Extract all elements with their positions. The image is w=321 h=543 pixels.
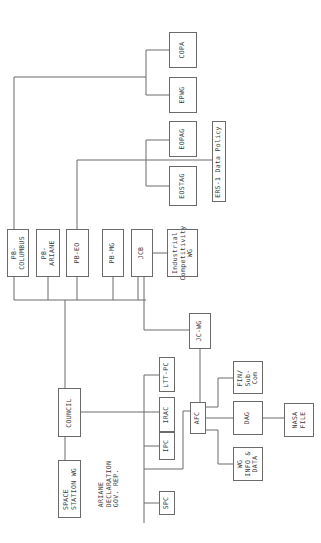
- node-council: COUNCIL: [58, 388, 81, 437]
- node-jc-wg: JC-WG: [189, 313, 211, 349]
- connector-line: [144, 277, 189, 330]
- connector-line: [14, 77, 146, 229]
- node-ariane-declaration: ARIANE DECLARATION GOV. REP.: [95, 456, 123, 512]
- node-eopag: EOPAG: [169, 121, 197, 157]
- node-label: COUNCIL: [66, 398, 74, 428]
- node-ers1: ERS-1 Data Policy: [212, 121, 226, 202]
- node-epwg: EPWG: [169, 77, 197, 113]
- node-label: ERS-1 Data Policy: [215, 126, 223, 198]
- node-jcb: JCB: [131, 229, 153, 277]
- node-afc: AFC: [190, 402, 206, 434]
- node-label: EPWG: [179, 87, 187, 104]
- node-pb-mg: PB-MG: [102, 229, 124, 277]
- node-label: JC-WG: [196, 320, 204, 341]
- node-label: Industrial Competitivity WG: [171, 226, 194, 281]
- node-nasa-file: NASA FILE: [284, 403, 314, 437]
- node-label: IRAC: [163, 406, 171, 423]
- node-eostag: EOSTAG: [169, 166, 197, 206]
- connector-line: [206, 378, 233, 407]
- node-label: LTT-PC: [163, 362, 171, 387]
- connector-line: [14, 277, 146, 300]
- node-label: PB-MG: [109, 242, 117, 263]
- node-pb-columbus: PB- COLUMBUS: [7, 229, 29, 277]
- node-ltt-pc: LTT-PC: [159, 357, 175, 392]
- node-space-station-wg: SPACE STATION WG: [58, 460, 81, 518]
- node-label: JCB: [138, 247, 146, 260]
- node-label: EOPAG: [179, 128, 187, 149]
- node-copa: COPA: [169, 32, 197, 68]
- node-label: ARIANE DECLARATION GOV. REP.: [98, 461, 121, 507]
- node-label: PB-EO: [74, 242, 82, 263]
- node-label: SPACE STATION WG: [62, 468, 77, 510]
- node-label: DAG: [244, 412, 252, 425]
- node-spc: SPC: [159, 491, 175, 515]
- node-label: IPC: [163, 440, 171, 453]
- org-chart: COPAEPWGEOPAGEOSTAGERS-1 Data PolicyPB- …: [0, 0, 321, 543]
- node-label: WG INFO & DATA: [237, 451, 260, 476]
- node-label: PB- COLUMBUS: [11, 236, 26, 270]
- node-pb-eo: PB-EO: [66, 229, 89, 277]
- node-label: EOSTAG: [179, 173, 187, 198]
- node-fin-sub-com: FIN/ Sub- Com: [233, 361, 263, 394]
- node-industrial-wg: Industrial Competitivity WG: [167, 229, 198, 277]
- node-label: AFC: [194, 412, 202, 425]
- node-label: PB- ARIANE: [41, 240, 56, 265]
- node-dag: DAG: [233, 401, 263, 435]
- connector-line: [206, 430, 233, 464]
- node-wg-info-data: WG INFO & DATA: [233, 447, 263, 481]
- node-ipc: IPC: [159, 432, 175, 460]
- node-label: FIN/ Sub- Com: [237, 369, 260, 386]
- node-label: NASA FILE: [292, 412, 307, 429]
- node-label: SPC: [163, 497, 171, 510]
- node-label: COPA: [179, 42, 187, 59]
- node-pb-ariane: PB- ARIANE: [36, 229, 60, 277]
- node-irac: IRAC: [159, 397, 175, 432]
